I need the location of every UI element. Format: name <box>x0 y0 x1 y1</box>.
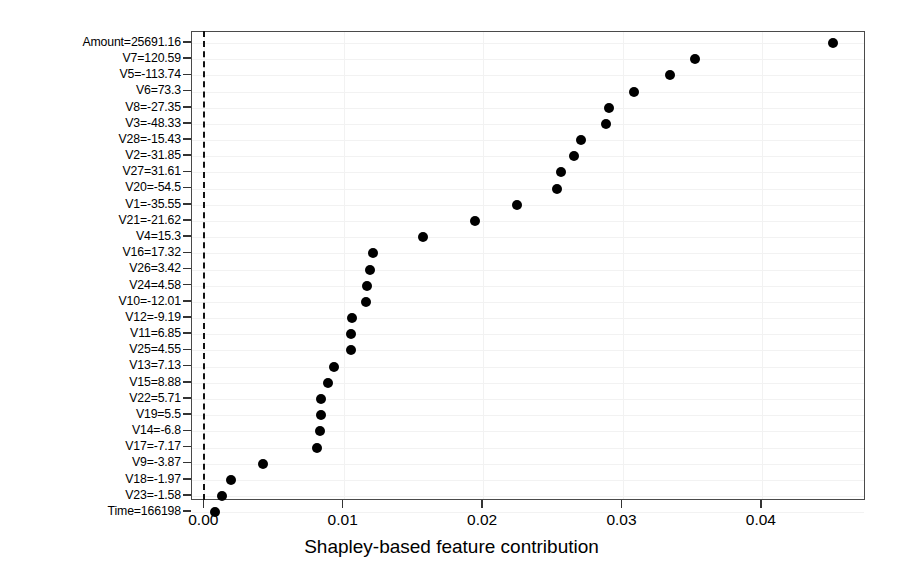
gridline-horizontal <box>192 415 864 416</box>
data-point <box>512 200 522 210</box>
gridline-vertical <box>483 32 484 499</box>
data-point <box>576 135 586 145</box>
y-axis-tick-label: V18=-1.97 <box>125 473 181 485</box>
data-point <box>258 459 268 469</box>
gridline-horizontal <box>192 221 864 222</box>
gridline-vertical <box>623 32 624 499</box>
y-axis-tick-mark <box>183 187 191 189</box>
y-axis-tick-mark <box>183 154 191 156</box>
zero-reference-line <box>203 31 205 500</box>
gridline-horizontal <box>192 43 864 44</box>
x-axis-tick-mark <box>760 500 762 508</box>
x-axis-tick-mark <box>203 500 205 508</box>
gridline-horizontal <box>192 399 864 400</box>
gridline-vertical <box>762 32 763 499</box>
y-axis-tick-label: V10=-12.01 <box>119 295 181 307</box>
gridline-horizontal <box>192 108 864 109</box>
plot-area <box>191 31 865 500</box>
y-axis-tick-mark <box>183 300 191 302</box>
y-axis-tick-mark <box>183 494 191 496</box>
y-axis-tick-label: V7=120.59 <box>123 52 181 64</box>
x-axis-tick-mark <box>481 500 483 508</box>
y-axis-tick-label: V11=6.85 <box>130 327 181 339</box>
y-axis-tick-label: Time=166198 <box>108 505 181 517</box>
gridline-horizontal <box>192 124 864 125</box>
gridline-horizontal <box>192 383 864 384</box>
y-axis-tick-mark <box>183 397 191 399</box>
y-axis-tick-label: V6=73.3 <box>136 84 181 96</box>
data-point <box>346 345 356 355</box>
y-axis-tick-mark <box>183 235 191 237</box>
gridline-vertical <box>344 32 345 499</box>
gridline-horizontal <box>192 156 864 157</box>
gridline-horizontal <box>192 205 864 206</box>
y-axis-tick-mark <box>183 122 191 124</box>
y-axis-tick-label: V12=-9.19 <box>125 311 181 323</box>
y-axis-tick-label: V21=-21.62 <box>119 214 181 226</box>
gridline-horizontal <box>192 172 864 173</box>
y-axis-tick-mark <box>183 462 191 464</box>
data-point <box>552 184 562 194</box>
data-point <box>418 232 428 242</box>
gridline-horizontal <box>192 334 864 335</box>
data-point <box>347 313 357 323</box>
y-axis-tick-mark <box>183 316 191 318</box>
data-point <box>217 491 227 501</box>
y-axis-tick-label: V13=7.13 <box>129 359 181 371</box>
x-axis-tick-label: 0.04 <box>746 511 776 528</box>
y-axis-tick-mark <box>183 365 191 367</box>
y-axis-tick-label: V19=5.5 <box>136 408 181 420</box>
data-point <box>323 378 333 388</box>
gridline-horizontal <box>192 350 864 351</box>
y-axis-tick-mark <box>183 268 191 270</box>
gridline-horizontal <box>192 189 864 190</box>
data-point <box>312 443 322 453</box>
data-point <box>365 265 375 275</box>
y-axis-tick-label: V20=-54.5 <box>125 181 181 193</box>
x-axis-tick-label: 0.01 <box>328 511 358 528</box>
y-axis-tick-mark <box>183 219 191 221</box>
y-axis-tick-mark <box>183 106 191 108</box>
data-point <box>315 426 325 436</box>
y-axis-tick-mark <box>183 349 191 351</box>
y-axis-tick-label: V2=-31.85 <box>125 149 181 161</box>
x-axis-tick-mark <box>342 500 344 508</box>
x-axis-tick-mark <box>621 500 623 508</box>
gridline-horizontal <box>192 302 864 303</box>
gridline-horizontal <box>192 270 864 271</box>
y-axis-tick-mark <box>183 171 191 173</box>
y-axis-tick-mark <box>183 74 191 76</box>
y-axis-tick-label: V4=15.3 <box>136 230 181 242</box>
data-point <box>690 54 700 64</box>
y-axis-tick-label: V8=-27.35 <box>125 101 181 113</box>
gridline-horizontal <box>192 75 864 76</box>
y-axis-tick-label: V28=-15.43 <box>119 133 181 145</box>
y-axis-tick-mark <box>183 203 191 205</box>
y-axis-tick-label: V23=-1.58 <box>125 489 181 501</box>
gridline-horizontal <box>192 496 864 497</box>
y-axis-tick-label: V24=4.58 <box>129 279 181 291</box>
gridline-horizontal <box>192 367 864 368</box>
data-point <box>368 248 378 258</box>
data-point <box>569 151 579 161</box>
data-point <box>329 362 339 372</box>
y-axis-tick-mark <box>183 332 191 334</box>
y-axis-tick-label: V1=-35.55 <box>125 198 181 210</box>
y-axis-tick-mark <box>183 284 191 286</box>
data-point <box>601 119 611 129</box>
y-axis-tick-label: V9=-3.87 <box>132 456 181 468</box>
data-point <box>629 87 639 97</box>
data-point <box>556 167 566 177</box>
x-axis-tick-label: 0.03 <box>606 511 636 528</box>
data-point <box>361 297 371 307</box>
y-axis-tick-label: V26=3.42 <box>129 262 181 274</box>
gridline-horizontal <box>192 286 864 287</box>
y-axis-tick-mark <box>183 57 191 59</box>
y-axis-tick-label: Amount=25691.16 <box>82 36 181 48</box>
y-axis-tick-label: V15=8.88 <box>129 376 181 388</box>
y-axis-tick-mark <box>183 446 191 448</box>
data-point <box>226 475 236 485</box>
y-axis-tick-label: V14=-6.8 <box>132 424 181 436</box>
gridline-horizontal <box>192 318 864 319</box>
gridline-horizontal <box>192 480 864 481</box>
